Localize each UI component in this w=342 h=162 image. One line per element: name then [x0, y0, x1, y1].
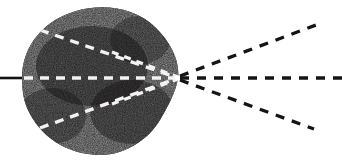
ray-diagram-svg	[0, 0, 342, 162]
focus-point-group	[174, 75, 179, 80]
figure-root	[0, 0, 342, 162]
focus-point	[174, 75, 179, 80]
